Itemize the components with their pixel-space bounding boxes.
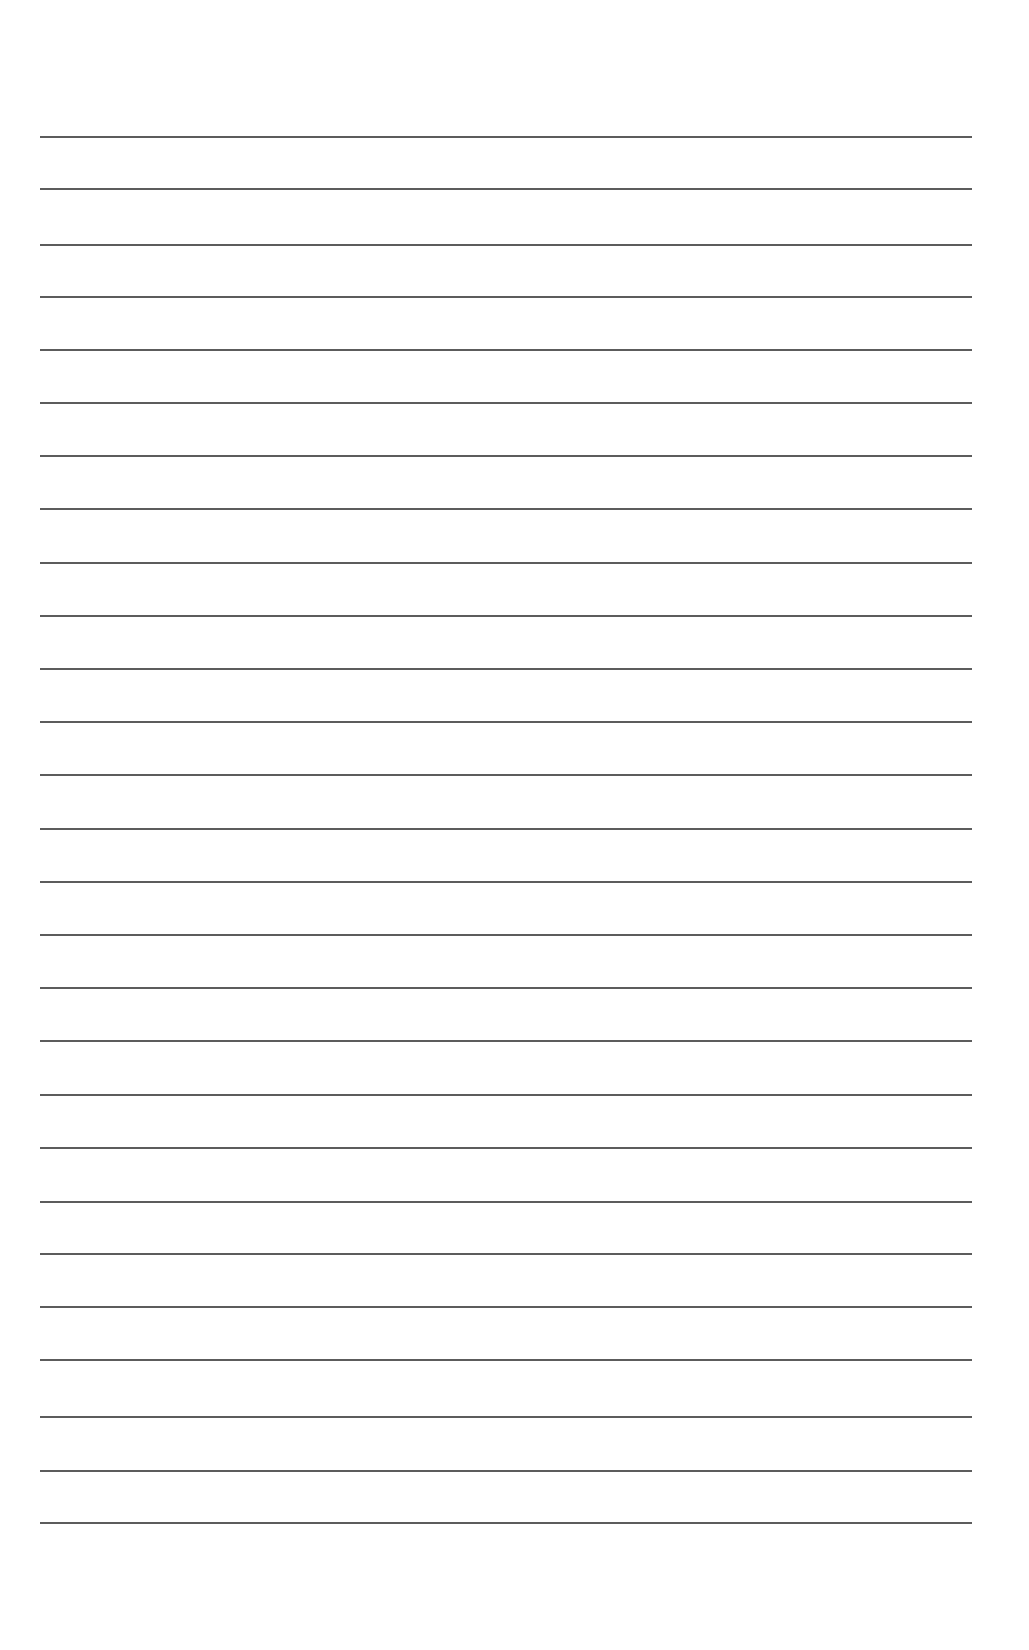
ruled-line xyxy=(40,1416,972,1418)
ruled-line xyxy=(40,1094,972,1096)
ruled-line xyxy=(40,1470,972,1472)
ruled-line xyxy=(40,562,972,564)
ruled-line xyxy=(40,1359,972,1361)
ruled-line xyxy=(40,402,972,404)
ruled-line xyxy=(40,296,972,298)
ruled-line xyxy=(40,1306,972,1308)
ruled-line xyxy=(40,1040,972,1042)
ruled-line xyxy=(40,934,972,936)
ruled-line xyxy=(40,136,972,138)
ruled-line xyxy=(40,1201,972,1203)
ruled-line xyxy=(40,828,972,830)
ruled-line xyxy=(40,455,972,457)
ruled-line xyxy=(40,1147,972,1149)
ruled-line xyxy=(40,1253,972,1255)
ruled-line xyxy=(40,188,972,190)
ruled-line xyxy=(40,668,972,670)
ruled-line xyxy=(40,987,972,989)
ruled-line xyxy=(40,1522,972,1524)
ruled-line xyxy=(40,881,972,883)
ruled-line xyxy=(40,349,972,351)
ruled-line xyxy=(40,721,972,723)
ruled-line xyxy=(40,615,972,617)
ruled-line xyxy=(40,508,972,510)
ruled-line xyxy=(40,774,972,776)
lined-paper-page xyxy=(0,0,1029,1650)
ruled-line xyxy=(40,244,972,246)
